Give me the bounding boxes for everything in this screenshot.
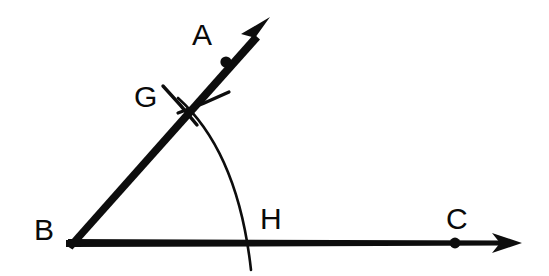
point-label-h: H: [260, 204, 282, 234]
ray-ba-shaft: [66, 34, 260, 250]
point-label-b: B: [34, 215, 54, 245]
point-marker-a: [220, 56, 231, 67]
point-marker-c: [450, 238, 461, 249]
geometry-figure: A B C G H: [0, 0, 549, 276]
ray-bc-shaft: [68, 239, 505, 247]
point-label-c: C: [446, 204, 468, 234]
point-label-a: A: [192, 20, 212, 50]
point-label-g: G: [134, 82, 157, 112]
